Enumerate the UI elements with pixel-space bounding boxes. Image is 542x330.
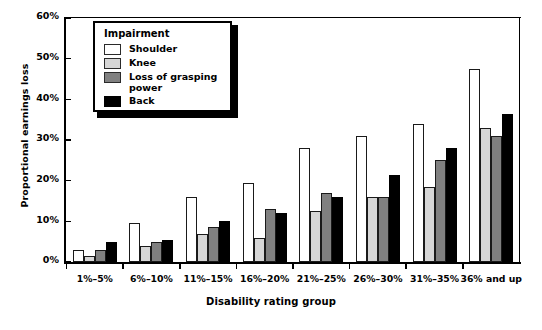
x-tick-label: 6%–10% xyxy=(130,273,173,284)
bar-grasp xyxy=(435,160,446,262)
bar-back xyxy=(389,175,400,262)
bar-shoulder xyxy=(243,183,254,262)
x-tick-mark xyxy=(179,262,181,269)
bar-knee xyxy=(424,187,435,262)
legend-swatch-grasp xyxy=(104,72,121,83)
bar-shoulder xyxy=(413,124,424,262)
bar-grasp xyxy=(95,250,106,262)
legend-swatch-knee xyxy=(104,58,121,69)
x-axis-title: Disability rating group xyxy=(0,296,542,307)
x-tick-label: 1%–5% xyxy=(77,273,113,284)
bar-chart-figure: Proportional earnings loss 0%10%20%30%40… xyxy=(0,0,542,330)
bar-back xyxy=(332,197,343,262)
bar-knee xyxy=(197,234,208,262)
x-tick-mark xyxy=(292,262,294,269)
bar-knee xyxy=(84,256,95,262)
bar-back xyxy=(502,114,513,262)
y-axis-title: Proportional earnings loss xyxy=(19,21,30,251)
x-tick-label: 21%–25% xyxy=(297,273,346,284)
bar-back xyxy=(162,240,173,262)
legend-swatch-back xyxy=(104,96,121,107)
x-tick-label: 26%–30% xyxy=(353,273,402,284)
legend-entry: Knee xyxy=(104,57,230,69)
x-tick-mark xyxy=(349,262,351,269)
bar-back xyxy=(276,213,287,262)
legend-entry: Shoulder xyxy=(104,43,230,55)
bar-group xyxy=(236,18,293,262)
x-tick-mark xyxy=(66,262,68,269)
bar-knee xyxy=(310,211,321,262)
bar-knee xyxy=(254,238,265,262)
bar-back xyxy=(219,221,230,262)
bar-shoulder xyxy=(186,197,197,262)
bar-group xyxy=(293,18,350,262)
bar-grasp xyxy=(208,227,219,262)
y-tick-label: 10% xyxy=(36,214,59,225)
bar-knee xyxy=(367,197,378,262)
bar-shoulder xyxy=(129,223,140,262)
x-tick-mark xyxy=(236,262,238,269)
bar-group xyxy=(463,18,520,262)
legend-label: Shoulder xyxy=(129,43,177,54)
bar-grasp xyxy=(491,136,502,262)
y-tick-label: 60% xyxy=(36,10,59,21)
legend-label: Back xyxy=(129,95,155,106)
bar-shoulder xyxy=(73,250,84,262)
x-tick-mark xyxy=(122,262,124,269)
y-tick-label: 20% xyxy=(36,173,59,184)
bar-group xyxy=(350,18,407,262)
bar-grasp xyxy=(151,242,162,262)
y-tick-label: 40% xyxy=(36,92,59,103)
x-tick-label: 31%–35% xyxy=(410,273,459,284)
x-tick-label: 16%–20% xyxy=(240,273,289,284)
legend-entries: ShoulderKneeLoss of grasping powerBack xyxy=(104,43,230,107)
bar-grasp xyxy=(265,209,276,262)
legend-box: Impairment ShoulderKneeLoss of grasping … xyxy=(93,21,232,112)
legend-swatch-shoulder xyxy=(104,44,121,55)
bar-grasp xyxy=(378,197,389,262)
y-tick-label: 0% xyxy=(43,254,59,265)
legend-entry: Back xyxy=(104,95,230,107)
y-tick-label: 30% xyxy=(36,132,59,143)
y-tick-label: 50% xyxy=(36,51,59,62)
bar-grasp xyxy=(321,193,332,262)
legend-label: Knee xyxy=(129,57,156,68)
bar-back xyxy=(446,148,457,262)
bar-knee xyxy=(480,128,491,262)
bar-group xyxy=(406,18,463,262)
legend-entry: Loss of grasping power xyxy=(104,71,230,93)
bar-back xyxy=(106,242,117,262)
x-tick-mark xyxy=(462,262,464,269)
bar-knee xyxy=(140,246,151,262)
x-tick-mark xyxy=(405,262,407,269)
x-tick-label: 36% and up xyxy=(460,273,522,284)
legend-title: Impairment xyxy=(104,28,230,39)
bar-shoulder xyxy=(469,69,480,262)
bar-shoulder xyxy=(356,136,367,262)
x-tick-label: 11%–15% xyxy=(183,273,232,284)
bar-shoulder xyxy=(299,148,310,262)
legend-label: Loss of grasping power xyxy=(129,71,217,93)
